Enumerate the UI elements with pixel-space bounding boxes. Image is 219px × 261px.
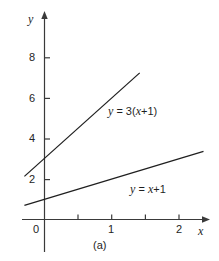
x-tick-label-0: 0 bbox=[33, 224, 39, 235]
line-series-steep bbox=[24, 73, 139, 176]
x-tick-label-2: 2 bbox=[176, 224, 182, 235]
x-tick-label-1: 1 bbox=[108, 224, 114, 235]
series-label-shallow-body: = bbox=[135, 183, 148, 195]
y-tick-label-2: 2 bbox=[29, 174, 35, 185]
series-label-steep-body: = 3( bbox=[113, 105, 135, 117]
x-axis-label: x bbox=[198, 225, 203, 237]
line-plot-canvas bbox=[0, 0, 219, 261]
figure-caption: (a) bbox=[93, 240, 106, 251]
series-label-shallow-suffix: +1 bbox=[153, 183, 166, 195]
x-axis bbox=[22, 216, 210, 222]
x-axis-ticks bbox=[78, 215, 179, 220]
series-label-steep-suffix: +1) bbox=[141, 105, 157, 117]
y-tick-label-8: 8 bbox=[29, 52, 35, 63]
y-tick-label-4: 4 bbox=[29, 133, 35, 144]
series-label-shallow: y = x+1 bbox=[130, 183, 166, 195]
y-axis bbox=[41, 11, 47, 252]
y-axis-ticks bbox=[45, 58, 51, 180]
series-label-steep: y = 3(x+1) bbox=[108, 105, 157, 117]
y-axis-label: y bbox=[28, 13, 33, 25]
figure-panel: y x 8 6 4 2 0 1 2 y = 3(x+1) y = x+1 (a) bbox=[0, 0, 219, 261]
y-tick-label-6: 6 bbox=[29, 93, 35, 104]
line-series-shallow bbox=[24, 151, 203, 205]
